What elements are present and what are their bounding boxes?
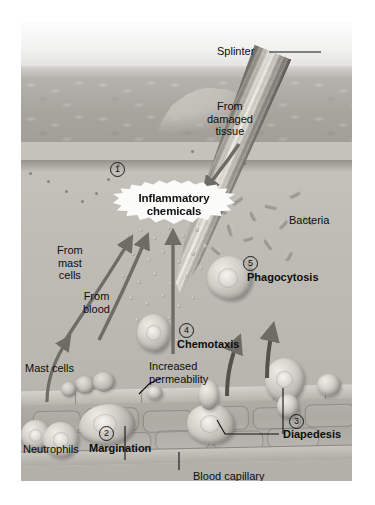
label-bacteria: Bacteria <box>289 214 329 227</box>
label-inflammatory-chemicals: Inflammatory chemicals <box>113 192 235 218</box>
step-number-5: 5 <box>243 256 258 271</box>
label-from-damaged-tissue: From damaged tissue <box>207 100 253 138</box>
label-from-blood: From blood <box>83 290 110 315</box>
label-blood-capillary: Blood capillary or venule <box>193 470 265 481</box>
arrow-emigration-up <box>267 326 273 378</box>
step-number-1: 1 <box>110 162 125 177</box>
label-increased-permeability: Increased permeability <box>149 360 208 385</box>
label-splinter: Splinter <box>217 45 254 58</box>
label-chemotaxis: Chemotaxis <box>177 338 239 351</box>
step-number-3: 3 <box>289 414 304 429</box>
leader-diapedesis-a <box>217 420 279 434</box>
step-number-4: 4 <box>179 323 194 338</box>
label-mast-cells: Mast cells <box>25 362 74 375</box>
arrow-from-damaged-tissue <box>205 144 239 190</box>
label-from-mast-cells: From mast cells <box>57 244 83 282</box>
label-margination: Margination <box>89 442 151 455</box>
step-number-2: 2 <box>99 426 114 441</box>
inflammation-figure: Splinter From damaged tissue 1 Inflammat… <box>21 22 352 481</box>
label-phagocytosis: Phagocytosis <box>247 271 319 284</box>
label-diapedesis: Diapedesis <box>283 428 341 441</box>
label-neutrophils: Neutrophils <box>23 443 79 456</box>
